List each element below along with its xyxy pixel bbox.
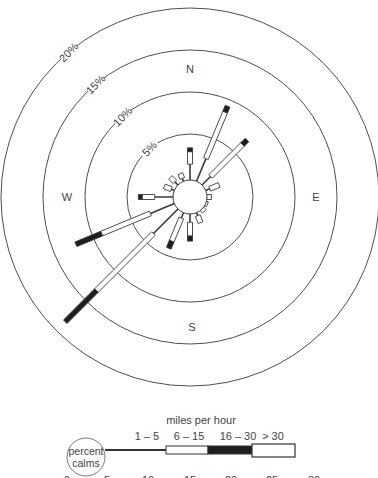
petal-segment-6-15	[101, 211, 152, 236]
ring-label-15: 15%	[84, 72, 108, 96]
petal-segment-16-30	[223, 105, 230, 113]
scale-tick-0: 0	[64, 474, 70, 478]
petal-segment-6-15	[204, 111, 228, 159]
ring-labels: 5%10%15%20%	[57, 40, 161, 160]
petal-segment-6-15	[188, 222, 193, 236]
petal-sw	[63, 197, 190, 324]
legend-class-4: > 30	[262, 430, 284, 442]
legend-title: miles per hour	[166, 414, 236, 426]
petal-segment-6-15	[195, 215, 203, 224]
petal-segment-6-15	[188, 152, 193, 165]
legend-class-2: 6 – 15	[174, 430, 205, 442]
scale-tick-25: 25	[266, 474, 278, 478]
scale-tick-5: 5	[104, 474, 110, 478]
scale-tick-30: 30	[308, 474, 320, 478]
petal-segment-16-30	[75, 231, 103, 246]
legend-calm-label-2: calms	[72, 457, 99, 469]
scale-tick-10: 10	[142, 474, 154, 478]
compass-label-e: E	[312, 191, 319, 203]
compass-label-s: S	[188, 321, 195, 333]
legend-calm-label-1: percent	[68, 445, 103, 457]
compass-label-n: N	[186, 63, 194, 75]
scale-tick-20: 20	[225, 474, 237, 478]
petal-segment-16-30	[63, 289, 98, 324]
petal-segment-6-15	[169, 217, 183, 242]
legend-bar-over-30	[252, 444, 295, 457]
ring-label-20: 20%	[57, 40, 81, 64]
petal-segment-6-15	[163, 184, 172, 192]
legend-bar-6-15	[166, 446, 208, 454]
calm-circle	[173, 180, 207, 214]
wind-rose-chart: 5%10%15%20% NESW miles per hour 1 – 5 6 …	[0, 0, 378, 478]
petal-segment-6-15	[178, 173, 185, 180]
petal-segment-6-15	[209, 143, 245, 179]
petal-segment-6-15	[209, 183, 220, 191]
legend: miles per hour 1 – 5 6 – 15 16 – 30 > 30…	[64, 414, 320, 478]
petal-segment-6-15	[95, 232, 156, 293]
petal-segment-6-15	[142, 195, 155, 200]
petal-segment-16-30	[188, 148, 193, 152]
scale-tick-15: 15	[184, 474, 196, 478]
petal-segment-16-30	[188, 236, 193, 241]
wind-petals	[63, 105, 248, 323]
petal-segment-16-30	[138, 195, 142, 200]
ring-label-10: 10%	[111, 104, 135, 128]
legend-class-3: 16 – 30	[220, 430, 257, 442]
legend-class-1: 1 – 5	[135, 430, 159, 442]
compass-label-w: W	[62, 191, 73, 203]
legend-scale-ticks: 051015202530	[64, 474, 320, 478]
petal-segment-16-30	[166, 240, 174, 249]
legend-bar-16-30	[208, 446, 252, 454]
